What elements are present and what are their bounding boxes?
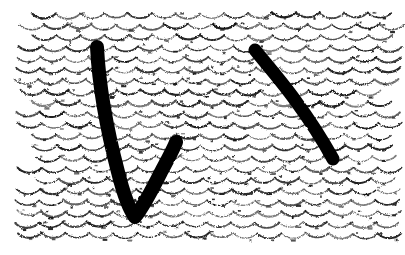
texture-ink-blob [22, 209, 24, 210]
texture-ink-blob [307, 150, 310, 152]
texture-ink-blob [27, 85, 31, 88]
texture-ink-blob [23, 229, 27, 231]
texture-ink-blob [139, 111, 143, 113]
texture-ink-blob [185, 55, 189, 57]
texture-ink-blob [357, 163, 360, 165]
texture-ink-blob [392, 204, 396, 206]
texture-ink-blob [210, 187, 213, 188]
texture-ink-blob [349, 31, 352, 33]
texture-ink-blob [254, 177, 257, 179]
texture-ink-blob [295, 193, 299, 195]
texture-ink-blob [95, 165, 98, 166]
texture-ink-blob [360, 22, 362, 24]
texture-ink-blob [40, 18, 43, 19]
texture-ink-blob [272, 117, 275, 119]
texture-ink-blob [244, 215, 247, 216]
texture-ink-blob [169, 61, 174, 63]
texture-ink-blob [283, 165, 286, 167]
texture-ink-blob [302, 156, 305, 158]
texture-ink-blob [145, 38, 147, 40]
texture-ink-blob [186, 150, 188, 152]
texture-ink-blob [257, 110, 261, 112]
texture-ink-blob [340, 62, 343, 64]
texture-ink-blob [315, 228, 319, 230]
texture-ink-blob [220, 63, 223, 65]
texture-ink-blob [279, 176, 282, 178]
texture-ink-blob [298, 51, 301, 52]
texture-ink-blob [144, 159, 146, 162]
texture-ink-blob [180, 12, 184, 14]
texture-ink-blob [128, 240, 132, 242]
texture-ink-blob [339, 116, 343, 118]
texture-ink-blob [163, 18, 165, 20]
texture-ink-blob [376, 222, 378, 223]
texture-ink-blob [148, 51, 152, 53]
texture-ink-blob [32, 215, 35, 217]
texture-ink-blob [103, 239, 108, 241]
texture-ink-blob [383, 183, 386, 185]
texture-ink-blob [308, 45, 310, 47]
texture-ink-blob [173, 83, 177, 86]
texture-ink-blob [342, 74, 344, 75]
texture-ink-blob [243, 127, 245, 129]
texture-ink-blob [237, 110, 240, 111]
texture-ink-blob [390, 31, 395, 33]
texture-ink-blob [262, 150, 267, 152]
texture-ink-blob [78, 193, 82, 195]
texture-ink-blob [301, 144, 303, 146]
texture-ink-blob [271, 173, 276, 175]
texture-ink-blob [287, 183, 292, 185]
texture-ink-blob [69, 45, 70, 46]
texture-ink-blob [44, 107, 49, 109]
texture-ink-blob [77, 73, 81, 74]
texture-ink-blob [176, 72, 179, 74]
texture-ink-blob [369, 96, 374, 98]
texture-ink-blob [162, 105, 164, 107]
texture-ink-blob [212, 183, 216, 185]
texture-ink-blob [296, 205, 301, 207]
texture-ink-blob [238, 210, 241, 212]
texture-ink-blob [296, 29, 301, 31]
texture-ink-blob [281, 187, 283, 189]
texture-ink-blob [211, 106, 214, 109]
texture-ink-blob [106, 194, 111, 196]
texture-ink-blob [78, 127, 82, 129]
texture-ink-blob [338, 82, 340, 85]
texture-ink-blob [60, 128, 64, 129]
texture-ink-blob [381, 24, 385, 26]
texture-ink-blob [148, 216, 152, 218]
texture-ink-blob [266, 206, 271, 208]
texture-ink-blob [355, 122, 357, 124]
texture-ink-blob [201, 61, 203, 63]
texture-ink-blob [383, 84, 386, 85]
texture-ink-blob [382, 160, 386, 162]
texture-ink-blob [190, 41, 193, 43]
texture-ink-blob [174, 28, 177, 31]
texture-ink-blob [239, 85, 242, 87]
texture-ink-blob [357, 150, 360, 152]
texture-ink-blob [211, 140, 213, 143]
texture-ink-blob [345, 97, 348, 99]
texture-ink-blob [69, 41, 71, 43]
texture-ink-blob [189, 66, 191, 68]
texture-ink-blob [71, 23, 73, 24]
texture-ink-blob [260, 40, 264, 43]
texture-ink-blob [294, 73, 296, 74]
texture-ink-blob [244, 183, 248, 185]
texture-ink-blob [262, 166, 265, 168]
texture-ink-blob [352, 138, 355, 140]
texture-ink-blob [51, 238, 55, 240]
texture-ink-blob [217, 84, 220, 87]
texture-ink-blob [271, 239, 274, 241]
image-canvas: Handwritten ink strokes over a wavy hatc… [0, 0, 405, 255]
texture-ink-blob [210, 231, 214, 232]
texture-ink-blob [98, 171, 103, 172]
texture-ink-blob [197, 82, 202, 85]
texture-ink-blob [29, 237, 32, 240]
texture-ink-blob [354, 182, 358, 184]
texture-ink-blob [43, 182, 46, 184]
texture-ink-blob [56, 195, 59, 197]
texture-ink-blob [267, 193, 272, 195]
texture-ink-blob [163, 231, 167, 233]
texture-ink-blob [113, 199, 115, 201]
